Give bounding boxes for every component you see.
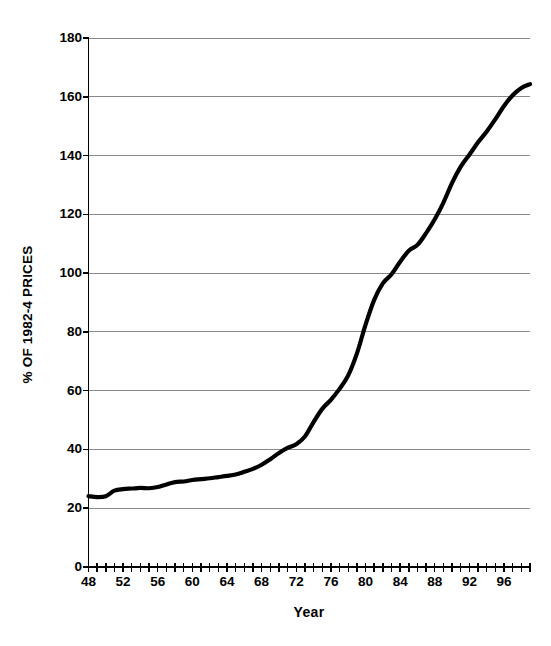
data-series-line (89, 84, 531, 497)
plot-area (0, 0, 551, 646)
series-line-consumer-price-index (89, 84, 531, 497)
y-axis-tick-marks (83, 38, 89, 567)
chart-container: % OF 1982-4 PRICES Year 0204060801001201… (0, 0, 551, 646)
gridlines (89, 38, 531, 508)
